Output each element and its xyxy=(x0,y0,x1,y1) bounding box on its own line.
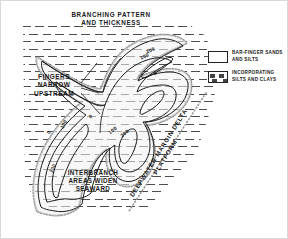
blank-swatch-icon xyxy=(208,51,228,63)
isopach-map xyxy=(1,1,288,239)
annotation-fingers-narrow-upstream: FINGERS NARROW UPSTREAM xyxy=(27,73,81,98)
legend-item-incorporating-silts-clays: INCORPORATING SILTS AND CLAYS xyxy=(208,70,286,83)
legend: BAR-FINGER SANDS AND SILTS INCORPORATING… xyxy=(208,50,286,91)
legend-label: INCORPORATING SILTS AND CLAYS xyxy=(232,70,276,83)
legend-label: BAR-FINGER SANDS AND SILTS xyxy=(232,50,283,63)
figure-title: BRANCHING PATTERN AND THICKNESS xyxy=(53,11,169,27)
dashed-swatch-icon xyxy=(208,71,228,83)
annotation-interbranch-areas-widen-seaward: INTERBRANCH AREAS WIDEN SEAWARD xyxy=(57,169,129,193)
figure-panel: 0 100 200 0 100 200 0 100 200 BRANCHING … xyxy=(0,0,288,239)
legend-item-bar-finger-sands: BAR-FINGER SANDS AND SILTS xyxy=(208,50,286,63)
